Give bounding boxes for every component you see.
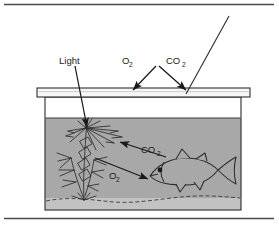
label-carbon-dioxide-top-subscript: 2 (182, 61, 186, 68)
label-oxygen-water-subscript: 2 (116, 176, 120, 183)
gravel-substrate (45, 198, 241, 210)
air-gap (45, 97, 241, 118)
label-oxygen-top-group: O 2 (122, 55, 133, 68)
oxygen-release-arrow (133, 66, 156, 90)
water-body (45, 118, 241, 210)
tank-lid (37, 88, 250, 97)
label-carbon-dioxide-water: CO (141, 144, 155, 155)
carbon-dioxide-entry-arrow (159, 66, 186, 90)
label-light: Light (59, 55, 80, 66)
label-light-group: Light (59, 55, 80, 66)
light-ray-line (186, 16, 229, 94)
label-oxygen-top-subscript: 2 (129, 61, 133, 68)
label-carbon-dioxide-top: CO (166, 55, 180, 66)
label-carbon-dioxide-water-subscript: 2 (157, 150, 161, 157)
label-carbon-dioxide-top-group: CO 2 (166, 55, 186, 68)
diagram-canvas: Light O 2 CO 2 CO 2 O 2 (0, 0, 279, 227)
aquarium-gas-exchange-figure: Light O 2 CO 2 CO 2 O 2 (0, 0, 279, 227)
